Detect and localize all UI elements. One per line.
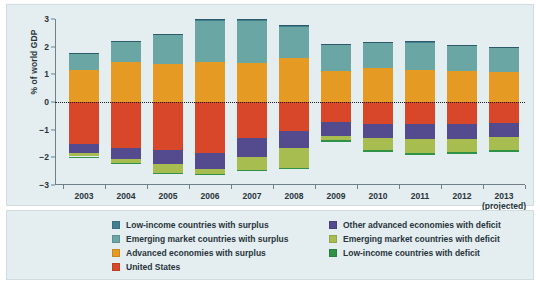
y-tick-label: −2 — [19, 152, 55, 162]
y-tick-label: 1 — [19, 69, 55, 79]
bar-segment — [279, 27, 310, 58]
legend-label: Advanced economies with surplus — [126, 248, 266, 258]
legend-swatch-icon — [112, 221, 120, 229]
bar-segment — [405, 43, 436, 71]
legend-label: Low-income countries with deficit — [343, 248, 480, 258]
legend-swatch-icon — [329, 235, 337, 243]
bar-segment — [279, 131, 310, 148]
legend-item[interactable]: Advanced economies with surplus — [112, 246, 288, 259]
bar-segment — [195, 153, 226, 169]
bar-segment — [195, 174, 226, 175]
y-tick-label: 2 — [19, 42, 55, 52]
legend-column-right: Other advanced economies with deficitEme… — [329, 218, 501, 260]
x-tick-mark — [105, 185, 106, 189]
bar-segment — [447, 46, 478, 70]
bar-segment — [69, 70, 100, 102]
bar-segment — [405, 124, 436, 139]
bar-segment — [489, 47, 520, 48]
bar-segment — [69, 53, 100, 54]
bar-segment — [69, 157, 100, 158]
bar-segment — [489, 48, 520, 72]
legend-item[interactable]: Other advanced economies with deficit — [329, 218, 501, 231]
bar-segment — [237, 19, 268, 21]
legend-label: Low-income countries with surplus — [126, 220, 269, 230]
bar-segment — [195, 19, 226, 21]
bar-segment — [195, 102, 226, 153]
x-tick-mark — [357, 185, 358, 189]
bar-segment — [363, 124, 394, 138]
x-tick-mark — [315, 185, 316, 189]
bar-segment — [489, 123, 520, 137]
bar-segment — [279, 58, 310, 102]
bar-segment — [405, 70, 436, 102]
x-tick-label: 2006 — [201, 191, 220, 201]
bar-segment — [279, 25, 310, 27]
bar-segment — [237, 138, 268, 157]
bar-segment — [111, 102, 142, 148]
x-tick-mark — [147, 185, 148, 189]
bar-segment — [363, 43, 394, 68]
bar-segment — [279, 148, 310, 167]
legend-swatch-icon — [112, 235, 120, 243]
legend-swatch-icon — [112, 263, 120, 271]
y-tick-label: −1 — [19, 125, 55, 135]
bar-segment — [321, 122, 352, 136]
bar-segment — [447, 71, 478, 102]
bar-segment — [153, 35, 184, 64]
legend-item[interactable]: Emerging market countries with surplus — [112, 232, 288, 245]
bar-segment — [405, 139, 436, 153]
x-tick-label: 2004 — [117, 191, 136, 201]
chart-figure: % of world GDP 3210−1−2−3 20032004200520… — [0, 0, 540, 284]
legend-item[interactable]: United States — [112, 260, 288, 273]
x-tick-label: 2007 — [243, 191, 262, 201]
bar-segment — [321, 102, 352, 122]
plot-area: 3210−1−2−3 20032004200520062007200820092… — [55, 19, 525, 185]
y-tick-label: 3 — [19, 14, 55, 24]
bar-segment — [489, 137, 520, 150]
legend-label: Emerging market countries with surplus — [126, 234, 288, 244]
x-tick-mark — [441, 185, 442, 189]
x-tick-label: 2012 — [453, 191, 472, 201]
zero-reference-line — [55, 102, 525, 103]
bar-segment — [363, 102, 394, 124]
x-tick-mark — [189, 185, 190, 189]
y-tick-label: −3 — [19, 180, 55, 190]
x-tick-mark — [63, 185, 64, 189]
bar-segment — [111, 41, 142, 42]
bar-segment — [363, 138, 394, 150]
bar-segment — [111, 148, 142, 160]
legend-item[interactable]: Low-income countries with deficit — [329, 246, 501, 259]
bar-segment — [447, 102, 478, 124]
legend-label: Emerging market countries with deficit — [343, 234, 500, 244]
x-tick-mark — [525, 185, 526, 189]
bar-segment — [279, 168, 310, 169]
bar-segment — [363, 68, 394, 102]
y-tick-label: 0 — [19, 97, 55, 107]
x-tick-label: 2010 — [369, 191, 388, 201]
bar-segment — [195, 62, 226, 102]
legend-panel: Low-income countries with surplusEmergin… — [6, 210, 534, 280]
bar-segment — [237, 63, 268, 102]
bar-segment — [69, 102, 100, 144]
bar-segment — [321, 44, 352, 45]
plot-panel: % of world GDP 3210−1−2−3 20032004200520… — [6, 4, 534, 206]
bar-segment — [237, 157, 268, 170]
legend-label: United States — [126, 262, 180, 272]
legend-column-left: Low-income countries with surplusEmergin… — [112, 218, 288, 274]
bar-segment — [69, 144, 100, 153]
bar-segment — [447, 45, 478, 46]
x-tick-mark — [399, 185, 400, 189]
bar-segment — [237, 102, 268, 138]
x-tick-label: 2011 — [411, 191, 429, 201]
bar-segment — [489, 72, 520, 102]
legend-item[interactable]: Emerging market countries with deficit — [329, 232, 501, 245]
x-tick-mark — [273, 185, 274, 189]
bar-segment — [363, 150, 394, 152]
bar-segment — [237, 21, 268, 63]
bar-segment — [153, 64, 184, 102]
bar-segment — [69, 54, 100, 71]
x-tick-mark — [231, 185, 232, 189]
bar-segment — [195, 21, 226, 63]
legend-item[interactable]: Low-income countries with surplus — [112, 218, 288, 231]
bar-segment — [489, 150, 520, 152]
